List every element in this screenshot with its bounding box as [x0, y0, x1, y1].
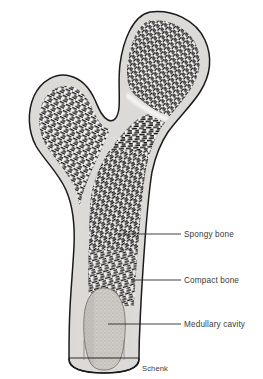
label-text-compact-bone: Compact bone	[184, 276, 239, 285]
femur-cross-section-figure: Spongy bone Compact bone Medullary cavit…	[0, 0, 263, 379]
label-text-spongy-bone: Spongy bone	[184, 230, 234, 239]
label-text-medullary-cavity: Medullary cavity	[184, 320, 246, 329]
artist-signature: Schenk	[142, 364, 168, 373]
